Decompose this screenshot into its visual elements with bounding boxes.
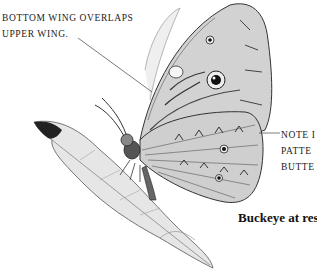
annotation-line: PATTE [281, 143, 315, 159]
annotation-line: BOTTOM WING OVERLAPS [2, 10, 133, 26]
annotation-line: BUTTE [281, 159, 315, 175]
annotation-note-pattern: NOTE I PATTE BUTTE [281, 127, 315, 175]
leader-line-top [78, 38, 152, 92]
annotation-wing-overlap: BOTTOM WING OVERLAPS UPPER WING. [2, 10, 133, 42]
annotation-line: NOTE I [281, 127, 315, 143]
figure-caption: Buckeye at rest [238, 210, 317, 226]
annotation-line: UPPER WING. [2, 26, 133, 42]
